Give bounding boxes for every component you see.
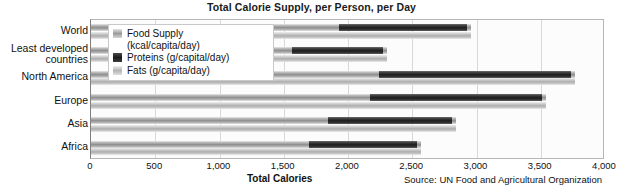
x-tick-1500: 1,500	[271, 160, 295, 171]
bar-group	[91, 90, 603, 113]
calorie-supply-chart: Total Calorie Supply, per Person, per Da…	[0, 0, 623, 190]
x-tick-3000: 3,000	[464, 160, 488, 171]
legend-swatch-fats-icon	[113, 66, 122, 75]
bar-group	[91, 113, 603, 136]
x-tick-0: 0	[87, 160, 92, 171]
category-label-north-america: North America	[0, 71, 88, 82]
source-note: Source: UN Food and Agricultural Organiz…	[404, 174, 602, 185]
chart-legend: Food Supply (kcal/capita/day) Proteins (…	[108, 24, 274, 81]
bar-proteins	[370, 94, 542, 101]
x-axis-title: Total Calories	[247, 173, 312, 184]
category-label-europe: Europe	[0, 95, 88, 106]
legend-item: Proteins (g/capital/day)	[113, 52, 269, 64]
x-tick-3500: 3,500	[528, 160, 552, 171]
legend-label-line2: (kcal/capita/day)	[127, 40, 200, 51]
legend-swatch-food-supply-icon	[113, 29, 122, 38]
category-label-asia: Asia	[0, 118, 88, 129]
bar-fats	[91, 102, 546, 109]
bar-proteins	[328, 117, 452, 124]
legend-label-food-supply: Food Supply (kcal/capita/day)	[127, 28, 200, 51]
category-label-world: World	[0, 25, 88, 36]
bar-group	[91, 137, 603, 158]
bar-fats	[91, 125, 456, 132]
legend-label-proteins: Proteins (g/capital/day)	[127, 52, 229, 64]
legend-item: Fats (g/capita/day)	[113, 65, 269, 77]
legend-label-fats: Fats (g/capita/day)	[127, 65, 210, 77]
x-tick-1000: 1,000	[207, 160, 231, 171]
x-tick-2000: 2,000	[335, 160, 359, 171]
legend-label-line1: Food Supply	[127, 28, 183, 39]
legend-swatch-proteins-icon	[113, 53, 122, 62]
bar-proteins	[379, 71, 571, 78]
legend-item: Food Supply (kcal/capita/day)	[113, 28, 269, 51]
x-tick-500: 500	[146, 160, 162, 171]
x-tick-4000: 4,000	[592, 160, 616, 171]
bar-proteins	[339, 24, 468, 31]
bar-proteins	[292, 47, 382, 54]
bar-fats	[91, 148, 421, 155]
chart-title: Total Calorie Supply, per Person, per Da…	[0, 1, 623, 13]
bar-proteins	[309, 141, 418, 148]
category-label-africa: Africa	[0, 141, 88, 152]
category-label-least-developed-countries: Least developed countries	[0, 43, 88, 65]
x-tick-2500: 2,500	[399, 160, 423, 171]
